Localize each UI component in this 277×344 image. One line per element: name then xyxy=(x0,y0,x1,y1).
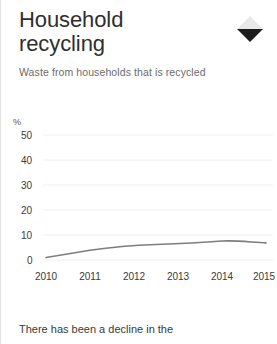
page-title: Household recycling xyxy=(19,8,189,56)
x-tick-2013: 2013 xyxy=(167,271,190,282)
y-axis-unit-label: % xyxy=(13,117,21,127)
x-tick-2014: 2014 xyxy=(211,271,234,282)
card-subtitle: Waste from households that is recycled xyxy=(19,65,219,79)
recycling-line-chart: % 50 40 30 20 10 0 2010 2011 2012 2013 2… xyxy=(1,112,277,302)
household-recycling-card: Household recycling Waste from household… xyxy=(0,0,277,344)
y-tick-40: 40 xyxy=(21,155,33,166)
y-tick-20: 20 xyxy=(21,205,33,216)
y-tick-50: 50 xyxy=(21,130,33,141)
x-tick-2012: 2012 xyxy=(123,271,146,282)
x-tick-2010: 2010 xyxy=(35,271,58,282)
diamond-collapse-icon[interactable] xyxy=(233,12,267,46)
x-tick-2015: 2015 xyxy=(253,271,276,282)
card-footer-text: There has been a decline in the xyxy=(19,322,234,337)
y-tick-30: 30 xyxy=(21,180,33,191)
x-tick-2011: 2011 xyxy=(79,271,101,282)
y-tick-10: 10 xyxy=(21,230,33,241)
series-line-household-recycling xyxy=(46,241,266,258)
card-header: Household recycling Waste from household… xyxy=(19,8,267,79)
y-tick-0: 0 xyxy=(27,255,33,266)
